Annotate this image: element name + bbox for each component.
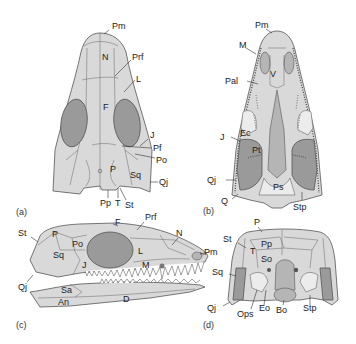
panel-d-occipital-skull: P St Pp T So Sq Qj Ops Eo Bo Stp (d) [200,217,338,330]
label-d-Stp: Stp [303,303,317,313]
label-d-Sq: Sq [212,267,223,277]
panel-b-ventral-skull: Pm M V Pal J Ec Pt Qj Q Ps Stp (b) [203,20,322,216]
label-b-J: J [220,132,225,142]
label-c-M: M [142,260,150,270]
label-c-L: L [138,246,143,256]
label-a-N: N [102,52,109,62]
label-d-Qj: Qj [207,303,216,313]
label-a-F: F [103,102,109,112]
right-choana [284,52,294,74]
label-b-Pal: Pal [225,76,238,86]
label-c-P: P [52,229,58,239]
label-c-Pm: Pm [204,247,218,257]
label-b-Ec: Ec [240,128,251,138]
label-c-J: J [82,260,87,270]
label-a-P: P [110,164,116,174]
label-c-Prf: Prf [145,212,157,222]
label-c-Po: Po [72,239,83,249]
label-a-Sq: Sq [130,170,141,180]
label-a-Prf: Prf [132,52,144,62]
label-a-Qj: Qj [159,177,168,187]
label-c-Qj: Qj [18,282,27,292]
label-d-St: St [223,234,232,244]
label-a-L: L [136,74,141,84]
label-b-Pm: Pm [255,20,269,30]
label-a-T: T [115,198,121,208]
label-a-J: J [150,130,155,140]
label-b-Qj: Qj [207,175,216,185]
label-d-Eo: Eo [259,303,270,313]
label-c-D: D [123,294,130,304]
panel-c-lateral-skull: F Prf N St P Po Sq J L M Pm Qj Sa An D (… [16,212,218,330]
label-a-Po: Po [156,155,167,165]
label-b-M: M [239,40,247,50]
label-b-Q: Q [221,196,228,206]
label-a-Pf: Pf [153,143,162,153]
label-d-Pp: Pp [261,239,272,249]
label-b-V: V [270,69,276,79]
panel-label-c: (c) [16,320,27,330]
panel-label-a: (a) [16,207,27,217]
lateral-orbit [87,232,133,268]
panel-label-d: (d) [203,320,214,330]
label-d-Ops: Ops [237,309,254,319]
label-a-Pm: Pm [112,21,126,31]
label-b-Pt: Pt [252,145,261,155]
label-c-N: N [176,228,183,238]
panel-a-dorsal-skull: Pm N Prf L F J Pf Po P Sq Qj Pp T St (a) [16,21,168,217]
label-c-F: F [115,217,121,227]
label-c-Sa: Sa [61,285,72,295]
label-d-So: So [261,254,272,264]
label-c-Sq: Sq [53,250,64,260]
label-c-An: An [58,297,69,307]
panel-label-b: (b) [203,206,214,216]
label-b-Ps: Ps [273,182,284,192]
label-a-Pp: Pp [100,198,111,208]
label-d-P: P [254,217,260,227]
label-b-Stp: Stp [293,202,307,212]
label-c-St: St [18,228,27,238]
label-d-Bo: Bo [276,305,287,315]
left-choana [260,52,270,74]
label-a-St: St [125,200,134,210]
label-d-T: T [250,246,256,256]
skull-figure: Pm N Prf L F J Pf Po P Sq Qj Pp T St (a) [0,0,356,344]
